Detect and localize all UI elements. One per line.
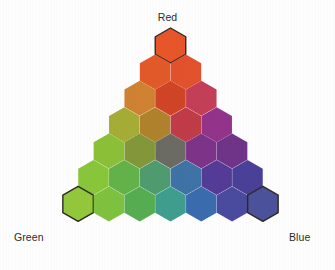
vertex-label-red: Red — [0, 12, 335, 23]
vertex-label-green: Green — [14, 232, 44, 243]
hexagon-grid-canvas — [0, 0, 335, 270]
ternary-color-triangle-figure: Red Green Blue — [0, 0, 335, 270]
vertex-label-blue: Blue — [289, 232, 310, 243]
